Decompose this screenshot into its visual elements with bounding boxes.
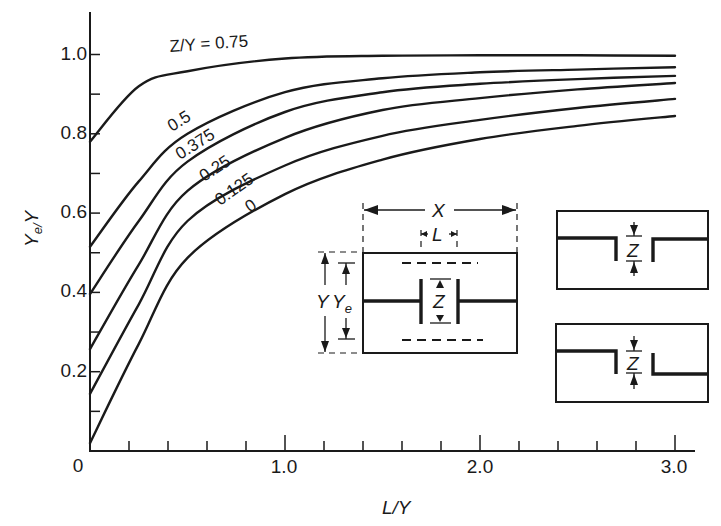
ye-dim-arrow-up-icon	[342, 264, 350, 274]
x-dim-arrow-right-icon	[502, 205, 516, 215]
x-tick-label: 2.0	[467, 456, 493, 477]
curve-labels: Z/Y = 0.75 0.5 0.375 0.25 0.125 0	[164, 32, 260, 217]
inset-main-diagram: X L Z Y Ye	[316, 200, 517, 353]
ye-dim-label: Ye	[332, 291, 352, 316]
x-axis-title: L/Y	[382, 497, 412, 518]
y-axis-title: Ye/Y	[21, 209, 45, 247]
y-tick-label: 0.2	[61, 360, 87, 381]
x-tick-label: 3.0	[661, 456, 687, 477]
inset-symmetric-iris: Z	[557, 211, 708, 289]
curve-label-0: 0	[241, 195, 260, 216]
curve-label-0.5: 0.5	[164, 107, 194, 136]
y-tick-label: 1.0	[61, 43, 87, 64]
y-tick-label: 0.4	[61, 280, 88, 301]
z-dim-label: Z	[626, 240, 640, 261]
x-dim-arrow-left-icon	[364, 205, 378, 215]
y-dim-arrow-up-icon	[321, 253, 329, 264]
y-axis-title-tail: Y	[21, 209, 42, 223]
ye-dim-arrow-down-icon	[342, 328, 350, 338]
l-dim-arrow-icon	[451, 231, 457, 237]
ye-dim-label-sub: e	[345, 301, 352, 316]
z-dim-label: Z	[626, 353, 640, 374]
l-dim-arrow-icon	[421, 231, 427, 237]
z-dim-label: Z	[432, 291, 446, 312]
l-dim-label: L	[432, 224, 443, 245]
inset-asymmetric-iris: Z	[556, 324, 708, 402]
y-tick-label: 0.6	[61, 201, 87, 222]
x-tick-labels: 0 1.0 2.0 3.0	[73, 455, 688, 477]
curve-label-0.75: Z/Y = 0.75	[169, 32, 249, 56]
x-tick-label: 1.0	[271, 456, 297, 477]
y-tick-label: 0.8	[61, 122, 87, 143]
y-dim-label: Y	[316, 291, 330, 312]
y-dim-arrow-down-icon	[321, 341, 329, 352]
y-tick-labels: 0.2 0.4 0.6 0.8 1.0	[61, 43, 88, 381]
chart-figure: 0 1.0 2.0 3.0 0.2 0.4 0.6 0.8 1.0 L/Y Ye…	[0, 0, 721, 526]
x-dim-label: X	[431, 200, 446, 221]
x-tick-label: 0	[73, 455, 84, 476]
